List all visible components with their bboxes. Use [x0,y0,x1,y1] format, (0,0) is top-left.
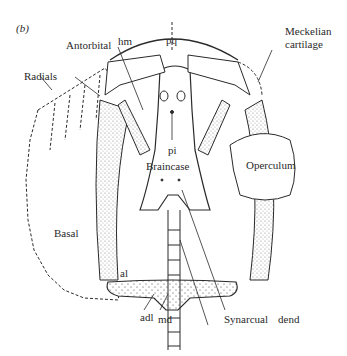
label-md: md [158,314,172,325]
label-al: al [120,268,128,279]
label-meckelian-2: cartilage [285,39,323,50]
label-dend: dend [278,314,299,325]
label-operculum: Operculum [246,160,295,171]
label-basal: Basal [54,228,78,239]
anatomical-diagram: (b) Antorbital hm pq Meckelian cartilage… [0,0,347,356]
label-antorbital: Antorbital [66,40,111,51]
label-pq: pq [166,35,177,46]
label-meckelian-1: Meckelian [285,26,331,37]
label-pi: pi [168,145,177,156]
label-adl: adl [140,312,153,323]
label-braincase: Braincase [146,161,189,172]
label-radials: Radials [24,71,57,82]
label-synarcual: Synarcual [224,314,268,325]
label-hm: hm [118,36,132,47]
panel-label: (b) [16,23,29,34]
skeleton-drawing [0,0,347,356]
